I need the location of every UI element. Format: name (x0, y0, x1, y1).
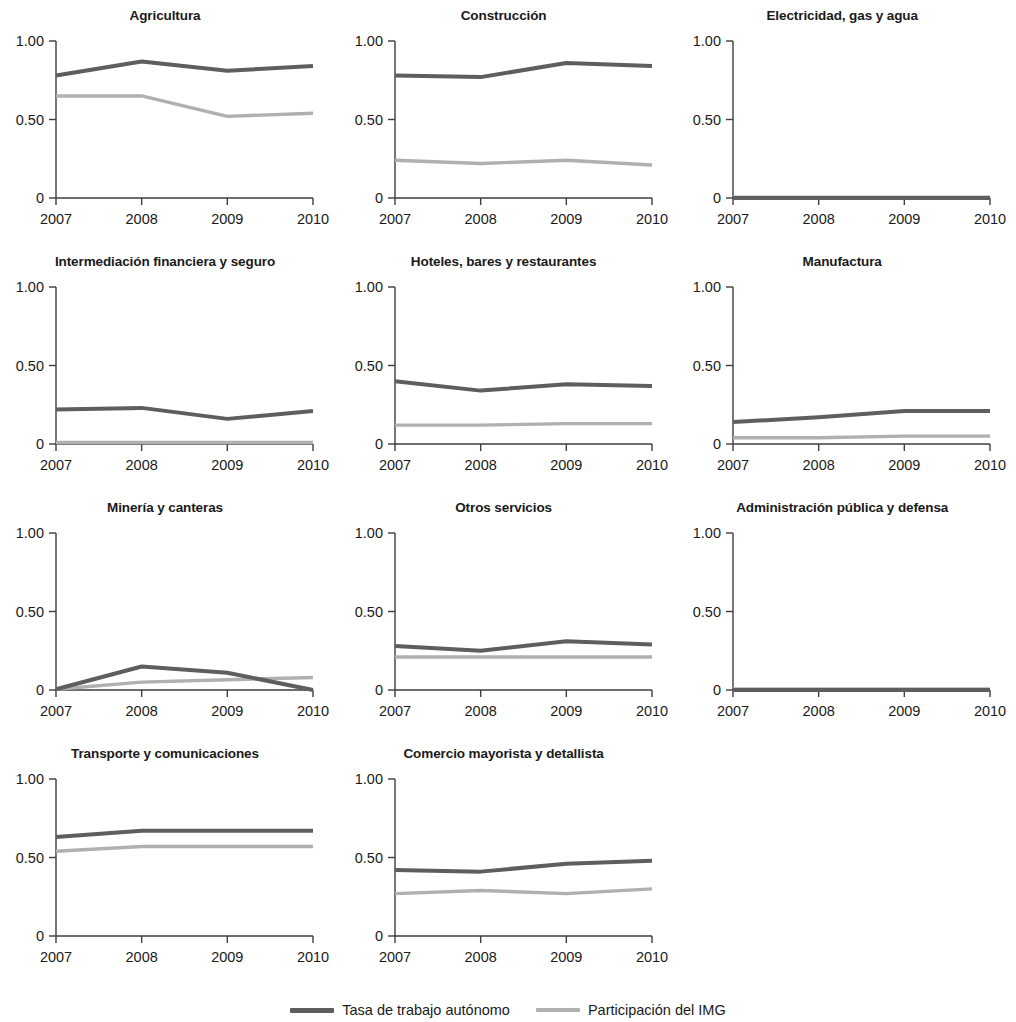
y-axis-tick-label: 1.00 (354, 279, 382, 295)
x-axis-tick-label: 2007 (40, 949, 72, 965)
panel-plot: 1.000.5002007200820092010 (677, 0, 1016, 246)
chart-panel: Transporte y comunicaciones1.000.5002007… (0, 738, 339, 984)
y-axis-tick-label: 1.00 (16, 525, 44, 541)
y-axis-tick-label: 1.00 (16, 771, 44, 787)
x-axis-tick-label: 2010 (297, 211, 329, 227)
y-axis-tick-label: 0.50 (16, 358, 44, 374)
y-axis-tick-label: 1.00 (354, 33, 382, 49)
chart-panel: Otros servicios1.000.5002007200820092010 (339, 492, 678, 738)
y-axis-tick-label: 0.50 (16, 112, 44, 128)
y-axis-tick-label: 0 (713, 190, 721, 206)
x-axis-tick-label: 2008 (126, 703, 158, 719)
x-axis-tick-label: 2009 (211, 211, 243, 227)
chart-panel: Administración pública y defensa1.000.50… (677, 492, 1016, 738)
x-axis-tick-label: 2007 (378, 949, 410, 965)
series-line-tasa-trabajo-autonomo (733, 411, 990, 422)
x-axis-tick-label: 2008 (464, 703, 496, 719)
x-axis-tick-label: 2008 (464, 457, 496, 473)
y-axis-tick-label: 0.50 (693, 112, 721, 128)
x-axis-tick-label: 2009 (888, 211, 920, 227)
series-line-participacion-img (395, 424, 652, 426)
chart-panel: Minería y canteras1.000.5002007200820092… (0, 492, 339, 738)
x-axis-tick-label: 2008 (464, 211, 496, 227)
x-axis-tick-label: 2010 (297, 949, 329, 965)
x-axis-tick-label: 2009 (550, 949, 582, 965)
legend-swatch-icon (290, 1008, 334, 1013)
panel-plot: 1.000.5002007200820092010 (0, 492, 339, 738)
x-axis-tick-label: 2007 (717, 211, 749, 227)
x-axis-tick-label: 2008 (803, 703, 835, 719)
y-axis-tick-label: 1.00 (354, 771, 382, 787)
panel-plot: 1.000.5002007200820092010 (0, 0, 339, 246)
x-axis-tick-label: 2010 (297, 703, 329, 719)
series-line-tasa-trabajo-autonomo (56, 831, 313, 837)
x-axis-tick-label: 2010 (635, 703, 667, 719)
x-axis-tick-label: 2010 (974, 457, 1006, 473)
series-line-participacion-img (733, 436, 990, 438)
chart-panel: Intermediación financiera y seguro1.000.… (0, 246, 339, 492)
series-line-tasa-trabajo-autonomo (395, 641, 652, 650)
series-line-participacion-img (56, 96, 313, 116)
x-axis-tick-label: 2010 (297, 457, 329, 473)
x-axis-tick-label: 2009 (888, 703, 920, 719)
y-axis-tick-label: 0.50 (693, 604, 721, 620)
chart-panel: Manufactura1.000.5002007200820092010 (677, 246, 1016, 492)
panel-plot: 1.000.5002007200820092010 (677, 246, 1016, 492)
x-axis-tick-label: 2008 (464, 949, 496, 965)
chart-panel: Construcción1.000.5002007200820092010 (339, 0, 678, 246)
x-axis-tick-label: 2009 (550, 703, 582, 719)
x-axis-tick-label: 2007 (717, 703, 749, 719)
panel-plot: 1.000.5002007200820092010 (677, 492, 1016, 738)
legend-entry: Participación del IMG (536, 1002, 726, 1018)
x-axis-tick-label: 2007 (378, 211, 410, 227)
y-axis-tick-label: 1.00 (16, 33, 44, 49)
panel-plot: 1.000.5002007200820092010 (339, 246, 678, 492)
x-axis-tick-label: 2010 (635, 211, 667, 227)
series-line-tasa-trabajo-autonomo (395, 381, 652, 390)
panel-plot: 1.000.5002007200820092010 (339, 738, 678, 984)
y-axis-tick-label: 1.00 (16, 279, 44, 295)
y-axis-tick-label: 0 (375, 682, 383, 698)
series-line-tasa-trabajo-autonomo (56, 61, 313, 75)
x-axis-tick-label: 2007 (40, 211, 72, 227)
y-axis-tick-label: 1.00 (693, 33, 721, 49)
x-axis-tick-label: 2009 (888, 457, 920, 473)
x-axis-tick-label: 2008 (803, 211, 835, 227)
y-axis-tick-label: 0.50 (16, 850, 44, 866)
y-axis-tick-label: 0 (36, 436, 44, 452)
panel-plot: 1.000.5002007200820092010 (0, 738, 339, 984)
x-axis-tick-label: 2010 (974, 703, 1006, 719)
y-axis-tick-label: 0 (375, 190, 383, 206)
chart-panel: Hoteles, bares y restaurantes1.000.50020… (339, 246, 678, 492)
x-axis-tick-label: 2008 (803, 457, 835, 473)
y-axis-tick-label: 1.00 (693, 279, 721, 295)
legend-label: Participación del IMG (588, 1002, 726, 1018)
y-axis-tick-label: 0 (713, 682, 721, 698)
y-axis-tick-label: 0 (36, 928, 44, 944)
series-line-participacion-img (395, 160, 652, 165)
legend-swatch-icon (536, 1008, 580, 1012)
x-axis-tick-label: 2008 (126, 457, 158, 473)
x-axis-tick-label: 2009 (211, 457, 243, 473)
x-axis-tick-label: 2007 (717, 457, 749, 473)
small-multiples-figure: Agricultura1.000.5002007200820092010Cons… (0, 0, 1016, 1022)
y-axis-tick-label: 0.50 (354, 358, 382, 374)
x-axis-tick-label: 2009 (550, 211, 582, 227)
legend-label: Tasa de trabajo autónomo (342, 1002, 510, 1018)
x-axis-tick-label: 2008 (126, 949, 158, 965)
y-axis-tick-label: 0 (36, 682, 44, 698)
x-axis-tick-label: 2010 (635, 457, 667, 473)
x-axis-tick-label: 2007 (40, 703, 72, 719)
y-axis-tick-label: 0.50 (16, 604, 44, 620)
y-axis-tick-label: 0 (36, 190, 44, 206)
panel-plot: 1.000.5002007200820092010 (0, 246, 339, 492)
chart-panel: Agricultura1.000.5002007200820092010 (0, 0, 339, 246)
panel-plot: 1.000.5002007200820092010 (339, 492, 678, 738)
series-line-participacion-img (395, 889, 652, 894)
chart-legend: Tasa de trabajo autónomoParticipación de… (0, 1002, 1016, 1018)
y-axis-tick-label: 0.50 (354, 850, 382, 866)
x-axis-tick-label: 2007 (378, 457, 410, 473)
panel-grid: Agricultura1.000.5002007200820092010Cons… (0, 0, 1016, 985)
y-axis-tick-label: 0 (375, 928, 383, 944)
x-axis-tick-label: 2008 (126, 211, 158, 227)
